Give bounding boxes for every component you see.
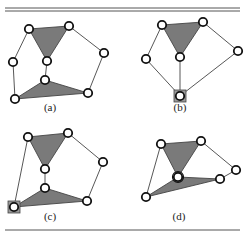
graph-node — [11, 95, 19, 103]
graph-edge — [146, 25, 162, 59]
graph-node — [10, 203, 18, 211]
graph-node — [174, 173, 182, 181]
graph-node — [83, 197, 91, 205]
panel-a: (a) — [9, 22, 108, 114]
graph-edge — [88, 53, 104, 93]
graph-node — [142, 55, 150, 63]
graph-node — [176, 53, 184, 61]
graph-node — [99, 158, 107, 166]
graph-node — [100, 49, 108, 57]
graph-node — [234, 47, 242, 55]
panel-label: (c) — [44, 210, 57, 223]
graph-node — [142, 193, 150, 201]
graph-edge — [68, 133, 103, 162]
shaded-face — [15, 80, 88, 99]
graph-node — [41, 165, 49, 173]
graph-edge — [180, 51, 238, 96]
graph-node — [9, 58, 17, 66]
graph-edge — [69, 26, 104, 53]
panel-label: (a) — [44, 101, 57, 114]
graph-node — [199, 18, 207, 26]
shaded-face — [162, 22, 203, 57]
graph-edge — [14, 137, 28, 207]
shaded-face — [14, 188, 87, 207]
shaded-face — [161, 141, 201, 177]
panel-label: (b) — [174, 101, 187, 114]
graph-node — [64, 129, 72, 137]
graph-edge — [201, 141, 236, 170]
graph-node — [158, 21, 166, 29]
graph-node — [197, 137, 205, 145]
panel-label: (d) — [173, 210, 186, 223]
graph-edge — [13, 29, 29, 62]
graph-node — [65, 22, 73, 30]
graph-figure: (a) (b) (c) (d) — [0, 0, 251, 235]
graph-node — [157, 140, 165, 148]
shaded-face — [28, 133, 68, 169]
panel-c: (c) — [8, 129, 107, 223]
graph-node — [24, 133, 32, 141]
graph-edge — [87, 162, 103, 201]
graph-node — [84, 89, 92, 97]
graph-node — [216, 175, 224, 183]
graph-edge — [203, 22, 238, 51]
graph-node — [232, 166, 240, 174]
graph-node — [41, 76, 49, 84]
graph-node — [43, 57, 51, 65]
graph-node — [41, 184, 49, 192]
shaded-face — [29, 26, 69, 61]
graph-edge — [13, 62, 15, 99]
panel-d: (d) — [142, 137, 240, 223]
graph-node — [25, 25, 33, 33]
graph-node — [176, 92, 184, 100]
panel-b: (b) — [142, 18, 242, 114]
